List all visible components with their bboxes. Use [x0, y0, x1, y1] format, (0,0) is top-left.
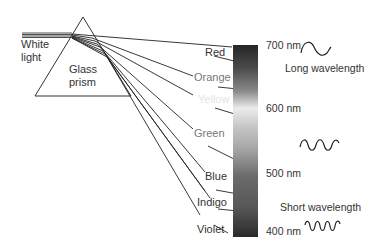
long-wave-icon	[301, 42, 331, 55]
prism-label-line2: prism	[69, 76, 96, 88]
spectrum-bar	[233, 45, 258, 237]
color-label-yellow: Yellow	[198, 93, 229, 105]
color-label-blue: Blue	[205, 170, 227, 182]
color-label-green: Green	[194, 127, 225, 139]
prism-label: Glass	[69, 63, 98, 75]
color-label-indigo: Indigo	[197, 196, 227, 208]
short-wavelength-label: Short wavelength	[280, 201, 361, 213]
refracted-rays-inside	[72, 35, 107, 57]
wavelength-tick-400: 400 nm	[266, 225, 301, 237]
white-light-label: White	[21, 38, 49, 50]
color-label-orange: Orange	[194, 71, 231, 83]
color-label-violet: Violet	[197, 223, 224, 235]
medium-wave-icon	[300, 140, 339, 151]
wavelength-tick-600: 600 nm	[266, 102, 301, 114]
white-light-beam	[22, 33, 72, 38]
color-label-red: Red	[205, 46, 225, 58]
white-light-label-line2: light	[21, 51, 41, 63]
dispersed-rays	[72, 34, 232, 215]
long-wavelength-label: Long wavelength	[285, 62, 365, 74]
wavelength-tick-500: 500 nm	[266, 167, 301, 179]
prism-dispersion-diagram: White light Glass prism	[0, 0, 385, 249]
wavelength-tick-700: 700 nm	[266, 39, 301, 51]
short-wave-icon	[305, 221, 340, 230]
